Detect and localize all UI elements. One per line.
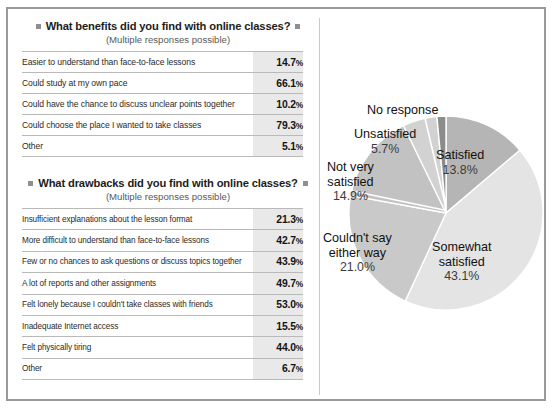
row-label: Could study at my own pace — [22, 73, 253, 94]
pie-label-unsatisfied-value: 5.7% — [354, 142, 416, 157]
table-row: A lot of reports and other assignments 4… — [22, 273, 303, 294]
benefits-block: What benefits did you find with online c… — [22, 19, 314, 157]
row-label: Inadequate Internet access — [22, 315, 253, 336]
table-row: More difficult to understand than face-t… — [22, 230, 303, 251]
table-row: Other 6.7% — [22, 358, 303, 379]
table-row: Could study at my own pace 66.1% — [22, 73, 303, 94]
row-value-number: 15.5 — [276, 321, 295, 332]
row-value-number: 44.0 — [276, 342, 295, 353]
bullet-square-icon — [303, 181, 308, 186]
row-value-number: 6.7 — [282, 363, 296, 374]
row-label: Felt lonely because I couldn't take clas… — [22, 294, 253, 315]
row-value-number: 42.7 — [276, 235, 295, 246]
pie-label-couldnt-say-l1: Couldn't say — [323, 231, 392, 245]
content-frame: What benefits did you find with online c… — [6, 7, 546, 401]
pie-label-somewhat-satisfied: Somewhat satisfied 43.1% — [432, 240, 492, 284]
row-label: Easier to understand than face-to-face l… — [22, 52, 253, 73]
row-value-unit: % — [296, 300, 303, 310]
row-value-unit: % — [296, 79, 303, 89]
row-label: Few or no chances to ask questions or di… — [22, 251, 253, 272]
row-value-unit: % — [296, 142, 303, 152]
row-label: Other — [22, 136, 253, 157]
table-row: Easier to understand than face-to-face l… — [22, 52, 303, 73]
row-value: 49.7% — [253, 273, 303, 294]
pie-label-unsatisfied: Unsatisfied 5.7% — [354, 127, 416, 156]
row-value-number: 5.1 — [282, 141, 296, 152]
row-value: 21.3% — [253, 209, 303, 230]
benefits-subtitle: (Multiple responses possible) — [22, 33, 314, 46]
pie-label-couldnt-say-value: 21.0% — [323, 260, 392, 275]
pie-label-satisfied-value: 13.8% — [436, 163, 484, 178]
bullet-square-icon — [295, 24, 300, 29]
pie-label-not-very-satisfied-l2: satisfied — [327, 175, 373, 189]
row-value-number: 79.3 — [276, 120, 295, 131]
row-value: 42.7% — [253, 230, 303, 251]
row-value: 66.1% — [253, 73, 303, 94]
row-value: 44.0% — [253, 337, 303, 358]
drawbacks-block: What drawbacks did you find with online … — [22, 176, 314, 380]
drawbacks-title: What drawbacks did you find with online … — [22, 176, 314, 190]
row-value: 43.9% — [253, 251, 303, 272]
row-value-number: 66.1 — [276, 78, 295, 89]
benefits-title: What benefits did you find with online c… — [22, 19, 314, 33]
table-row: Could choose the place I wanted to take … — [22, 115, 303, 136]
row-value-number: 49.7 — [276, 278, 295, 289]
row-value-unit: % — [296, 100, 303, 110]
row-value-number: 43.9 — [276, 256, 295, 267]
row-value-unit: % — [296, 279, 303, 289]
row-value: 14.7% — [253, 52, 303, 73]
row-value-unit: % — [296, 121, 303, 131]
row-value: 79.3% — [253, 115, 303, 136]
satisfaction-pie-chart: No response Unsatisfied 5.7% Not very sa… — [320, 18, 546, 395]
row-label: Insufficient explanations about the less… — [22, 209, 253, 230]
table-row: Could have the chance to discuss unclear… — [22, 94, 303, 115]
row-label: Could choose the place I wanted to take … — [22, 115, 253, 136]
pie-label-somewhat-satisfied-l1: Somewhat — [432, 240, 492, 254]
row-value: 53.0% — [253, 294, 303, 315]
pie-label-not-very-satisfied-value: 14.9% — [327, 189, 374, 204]
row-value: 6.7% — [253, 358, 303, 379]
row-value-unit: % — [296, 58, 303, 68]
row-value: 5.1% — [253, 136, 303, 157]
row-label: A lot of reports and other assignments — [22, 273, 253, 294]
row-value-number: 21.3 — [276, 214, 295, 225]
table-row: Felt physically tiring 44.0% — [22, 337, 303, 358]
row-value-unit: % — [296, 215, 303, 225]
table-row: Inadequate Internet access 15.5% — [22, 315, 303, 336]
row-value: 10.2% — [253, 94, 303, 115]
table-row: Other 5.1% — [22, 136, 303, 157]
tables-column: What benefits did you find with online c… — [22, 19, 314, 380]
row-label: Other — [22, 358, 253, 379]
drawbacks-table: Insufficient explanations about the less… — [22, 208, 303, 380]
pie-label-unsatisfied-text: Unsatisfied — [354, 127, 416, 141]
pie-label-couldnt-say: Couldn't say either way 21.0% — [323, 231, 392, 275]
pie-label-somewhat-satisfied-l2: satisfied — [439, 255, 485, 269]
row-label: More difficult to understand than face-t… — [22, 230, 253, 251]
pie-label-satisfied-text: Satisfied — [436, 148, 484, 162]
row-value-unit: % — [296, 322, 303, 332]
pie-label-not-very-satisfied-l1: Not very — [327, 160, 374, 174]
bullet-square-icon — [28, 181, 33, 186]
table-row: Few or no chances to ask questions or di… — [22, 251, 303, 272]
drawbacks-title-text: What drawbacks did you find with online … — [38, 177, 297, 189]
row-value-unit: % — [296, 364, 303, 374]
leader-lines — [320, 18, 546, 395]
row-value: 15.5% — [253, 315, 303, 336]
pie-label-couldnt-say-l2: either way — [329, 246, 386, 260]
benefits-title-text: What benefits did you find with online c… — [46, 20, 291, 32]
page-root: What benefits did you find with online c… — [0, 0, 554, 408]
pie-label-not-very-satisfied: Not very satisfied 14.9% — [327, 160, 374, 204]
drawbacks-subtitle: (Multiple responses possible) — [22, 190, 314, 203]
pie-label-no-response: No response — [367, 103, 438, 118]
bullet-square-icon — [36, 24, 41, 29]
row-value-unit: % — [296, 343, 303, 353]
benefits-table: Easier to understand than face-to-face l… — [22, 51, 303, 157]
row-value-unit: % — [296, 236, 303, 246]
table-row: Insufficient explanations about the less… — [22, 209, 303, 230]
pie-label-satisfied: Satisfied 13.8% — [436, 148, 484, 177]
row-value-unit: % — [296, 257, 303, 267]
table-row: Felt lonely because I couldn't take clas… — [22, 294, 303, 315]
row-value-number: 14.7 — [276, 57, 295, 68]
row-label: Could have the chance to discuss unclear… — [22, 94, 253, 115]
pie-label-somewhat-satisfied-value: 43.1% — [432, 269, 492, 284]
